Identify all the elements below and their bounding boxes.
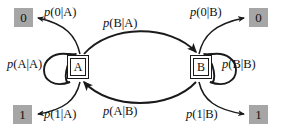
emission-arrow-a-to-0 [38, 18, 80, 54]
prob-args: (A|A) [13, 57, 42, 71]
state-node-a: A [67, 55, 89, 79]
label-p-a-given-a: p(A|A) [7, 58, 42, 71]
emission-box-1-from-a: 1 [13, 105, 32, 124]
prob-args: (1|A) [50, 107, 76, 121]
transition-arrow-a-to-b [84, 31, 196, 54]
prob-args: (B|A) [109, 16, 137, 30]
emission-label: 0 [20, 11, 27, 24]
transition-arrow-b-to-a [84, 82, 196, 103]
prob-args: (A|B) [109, 104, 137, 118]
state-inner-frame: A [70, 58, 86, 76]
emission-arrow-b-to-0 [199, 18, 244, 54]
emission-label: 1 [255, 108, 262, 121]
emission-box-0-from-a: 0 [14, 8, 33, 27]
state-label-a: A [74, 61, 83, 73]
state-inner-frame: B [193, 58, 209, 76]
label-p-a-given-b: p(A|B) [103, 105, 137, 118]
emission-label: 0 [255, 11, 262, 24]
state-label-b: B [197, 61, 205, 73]
label-p-b-given-a: p(B|A) [103, 17, 137, 30]
label-p-b-given-b: p(B|B) [222, 58, 256, 71]
prob-args: (1|B) [192, 107, 217, 121]
label-p-0-given-a: p(0|A) [44, 6, 76, 19]
label-p-1-given-a: p(1|A) [44, 108, 76, 121]
prob-args: (0|B) [196, 5, 221, 19]
label-p-0-given-b: p(0|B) [190, 6, 222, 19]
state-transition-diagram: 0 1 0 1 A B p(0|A) p(B|A) p(0|B) p(A|A) … [0, 0, 282, 133]
emission-box-1-from-b: 1 [249, 105, 268, 124]
label-p-1-given-b: p(1|B) [186, 108, 218, 121]
emission-box-0-from-b: 0 [249, 8, 268, 27]
emission-label: 1 [19, 108, 26, 121]
prob-args: (0|A) [50, 5, 76, 19]
prob-args: (B|B) [228, 57, 256, 71]
state-node-b: B [190, 55, 212, 79]
